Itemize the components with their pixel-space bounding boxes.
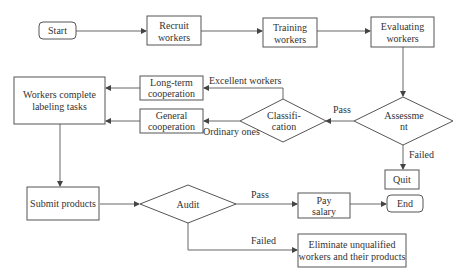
edge-audit-eliminate (188, 223, 297, 250)
svg-text:Eliminate unqualified: Eliminate unqualified (309, 239, 396, 250)
svg-text:workers and their products: workers and their products (299, 251, 406, 262)
label-pass-assessment: Pass (333, 104, 351, 115)
svg-text:workers: workers (274, 34, 306, 45)
label-failed-audit: Failed (251, 235, 276, 246)
svg-text:Start: Start (48, 25, 67, 36)
node-pay-salary: Pay salary (298, 193, 350, 218)
node-start: Start (39, 22, 76, 39)
label-failed-assessment: Failed (409, 149, 434, 160)
svg-text:salary: salary (312, 206, 336, 217)
svg-text:Quit: Quit (393, 174, 411, 185)
decision-assessment: Assessme nt (354, 97, 453, 145)
node-general-cooperation: General cooperation (140, 109, 203, 133)
svg-text:Submit products: Submit products (30, 198, 96, 209)
svg-text:Assessme: Assessme (384, 110, 424, 121)
svg-text:Recruit: Recruit (159, 20, 189, 31)
svg-text:General: General (156, 110, 188, 121)
flowchart: Start Recruit workers Training workers E… (0, 0, 470, 280)
label-ordinary-ones: Ordinary ones (203, 126, 260, 137)
node-workers-complete-labeling: Workers complete labeling tasks (14, 77, 105, 124)
node-evaluating-workers: Evaluating workers (371, 17, 434, 47)
svg-text:Long-term: Long-term (150, 77, 193, 88)
edge-classification-longterm (204, 88, 283, 99)
svg-text:Evaluating: Evaluating (381, 21, 424, 32)
node-recruit-workers: Recruit workers (147, 16, 201, 45)
svg-text:labeling tasks: labeling tasks (32, 101, 87, 112)
svg-text:Workers complete: Workers complete (23, 89, 96, 100)
label-pass-audit: Pass (251, 189, 269, 200)
node-eliminate-unqualified: Eliminate unqualified workers and their … (298, 234, 406, 267)
node-long-term-cooperation: Long-term cooperation (140, 76, 203, 100)
svg-text:Training: Training (273, 22, 307, 33)
svg-text:Audit: Audit (177, 199, 200, 210)
svg-text:cooperation: cooperation (148, 121, 195, 132)
node-training-workers: Training workers (263, 18, 317, 47)
svg-text:workers: workers (158, 32, 190, 43)
label-excellent-workers: Excellent workers (209, 75, 282, 86)
svg-text:cation: cation (272, 121, 296, 132)
node-submit-products: Submit products (27, 187, 99, 220)
edges (60, 31, 403, 250)
svg-text:Classifi-: Classifi- (267, 110, 301, 121)
svg-text:nt: nt (400, 121, 408, 132)
svg-text:End: End (397, 198, 413, 209)
node-quit: Quit (385, 170, 419, 189)
node-end: End (387, 195, 423, 212)
svg-text:workers: workers (386, 33, 418, 44)
svg-text:cooperation: cooperation (148, 88, 195, 99)
decision-audit: Audit (140, 185, 236, 223)
svg-text:Pay: Pay (317, 195, 332, 206)
